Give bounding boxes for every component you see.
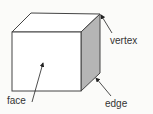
cube-diagram: vertex face edge xyxy=(0,0,153,114)
vertex-arrow xyxy=(101,15,112,33)
front-face xyxy=(12,32,81,91)
vertex-label: vertex xyxy=(110,35,137,46)
face-label: face xyxy=(7,95,26,106)
edge-label: edge xyxy=(105,98,128,109)
edge-arrow xyxy=(96,78,111,96)
